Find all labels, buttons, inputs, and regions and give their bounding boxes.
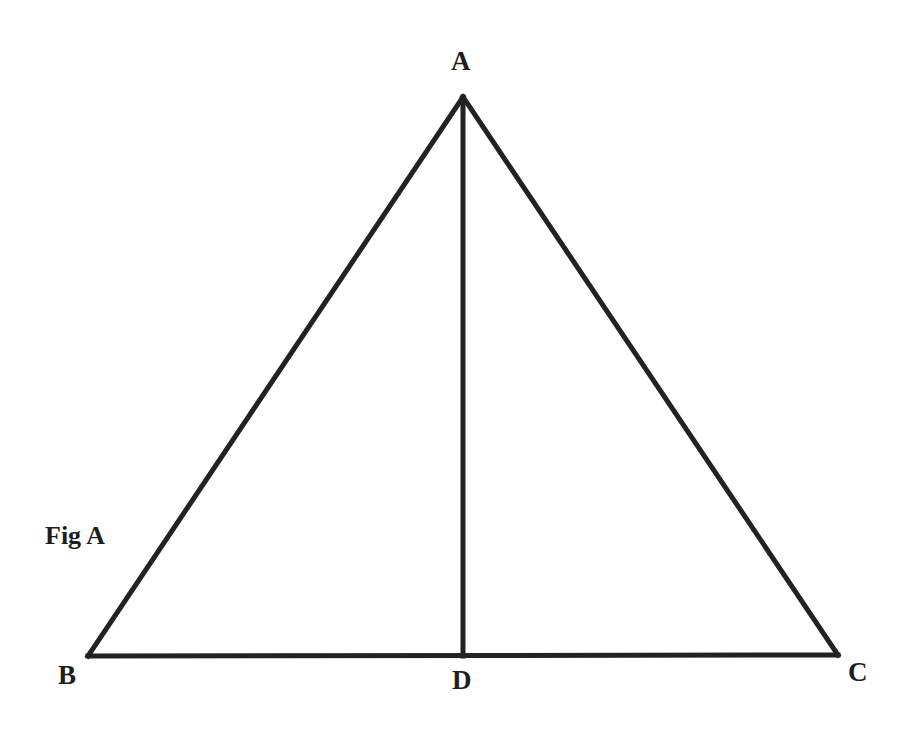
- segment-ab: [88, 97, 463, 656]
- figure-caption: Fig A: [45, 523, 105, 549]
- vertex-label-a: A: [451, 48, 471, 75]
- vertex-label-d: D: [452, 667, 472, 694]
- vertex-label-c: C: [848, 659, 868, 686]
- triangle-diagram: [0, 0, 917, 730]
- vertex-label-b: B: [58, 662, 76, 689]
- segment-ac: [463, 97, 838, 655]
